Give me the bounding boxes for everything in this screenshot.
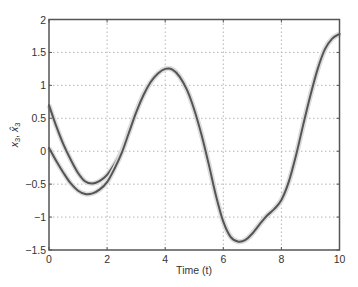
series-line-x3-hat xyxy=(49,34,340,242)
y-tick-label: 1.5 xyxy=(31,46,46,58)
y-axis-label: x3, x̂3 xyxy=(8,123,22,149)
plot-frame xyxy=(49,20,340,251)
y-tick-label: −1 xyxy=(34,211,46,223)
y-tick-label: 2 xyxy=(40,14,46,26)
chart: 0246810 −1.5−1−0.500.511.52 Time (t) x3,… xyxy=(0,0,358,287)
series-halo-x3 xyxy=(49,34,340,242)
y-tick-label: 1 xyxy=(40,79,46,91)
series-group xyxy=(49,34,340,242)
x-axis-label: Time (t) xyxy=(176,264,212,276)
x-tick-label: 2 xyxy=(104,253,110,265)
y-tick-label: −1.5 xyxy=(25,244,46,256)
y-tick-label: 0.5 xyxy=(31,112,46,124)
series-line-x3 xyxy=(49,34,340,242)
grid xyxy=(49,20,340,251)
x-tick-label: 0 xyxy=(46,253,52,265)
y-label-xhat-sub: 3 xyxy=(13,123,22,127)
y-ticks: −1.5−1−0.500.511.52 xyxy=(25,14,339,257)
series-halo-x3-hat xyxy=(49,34,340,242)
y-tick-label: −0.5 xyxy=(25,178,46,190)
x-tick-label: 10 xyxy=(334,253,346,265)
x-tick-label: 4 xyxy=(162,253,168,265)
x-tick-label: 6 xyxy=(220,253,226,265)
x-tick-label: 8 xyxy=(278,253,284,265)
y-tick-label: 0 xyxy=(40,145,46,157)
